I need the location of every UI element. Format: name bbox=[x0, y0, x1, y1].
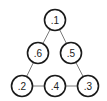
node-label: .6 bbox=[34, 48, 43, 59]
node-n3: .3 bbox=[78, 76, 99, 97]
node-label: .5 bbox=[67, 48, 76, 59]
nodes: .1.6.5.2.4.3 bbox=[12, 10, 99, 97]
node-n6: .6 bbox=[28, 43, 49, 64]
node-label: .3 bbox=[84, 81, 93, 92]
node-n4: .4 bbox=[45, 76, 66, 97]
node-label: .2 bbox=[18, 81, 27, 92]
triangle-graph: .1.6.5.2.4.3 bbox=[0, 0, 107, 101]
node-n2: .2 bbox=[12, 76, 33, 97]
node-n5: .5 bbox=[61, 43, 82, 64]
node-n1: .1 bbox=[45, 10, 66, 31]
node-label: .4 bbox=[51, 81, 60, 92]
node-label: .1 bbox=[51, 15, 60, 26]
